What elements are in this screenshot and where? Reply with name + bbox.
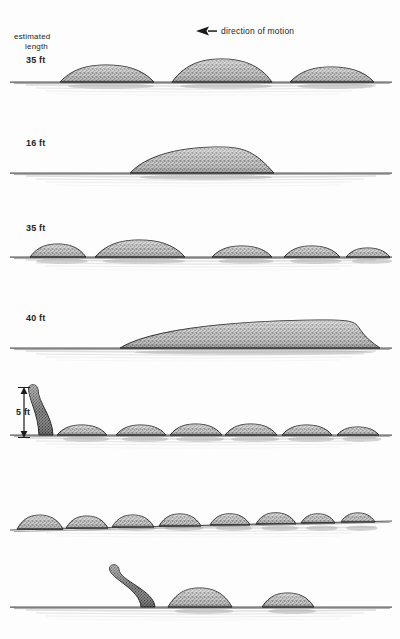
hump-shadow	[231, 437, 279, 442]
hump-shadow	[140, 175, 272, 180]
row-1-length-label: 35 ft	[26, 55, 46, 65]
hump-shadow	[352, 259, 392, 264]
hump-shadow	[36, 259, 88, 264]
row-4-length-label: 40 ft	[26, 313, 46, 323]
row-3-length-label: 35 ft	[26, 223, 46, 233]
hump-shadow	[176, 437, 224, 442]
hump-shadow	[297, 84, 374, 89]
hump-shadow	[63, 437, 109, 442]
hump-shadow	[262, 526, 299, 531]
hump-shadow	[306, 526, 337, 531]
length-label: length	[25, 42, 48, 52]
hump-shadow	[343, 437, 382, 442]
scale-label: 5 ft	[16, 407, 30, 417]
row-2-length-label: 16 ft	[26, 138, 46, 148]
hump-shadow	[288, 437, 334, 442]
hump-shadow	[218, 259, 273, 264]
hump-shadow	[175, 609, 234, 614]
hump-shadow	[180, 84, 272, 89]
direction-of-motion-label: direction of motion	[221, 26, 294, 36]
hump-shadow	[134, 350, 373, 355]
hump-shadow	[68, 84, 154, 89]
estimated-label: estimated	[14, 32, 50, 42]
hump-shadow	[346, 526, 377, 531]
monster-sighting-profiles-figure	[0, 0, 400, 639]
hump-shadow	[103, 259, 186, 264]
hump-shadow	[290, 259, 342, 264]
figure-background	[0, 0, 400, 639]
hump-shadow	[122, 437, 168, 442]
hump-shadow	[268, 609, 316, 614]
